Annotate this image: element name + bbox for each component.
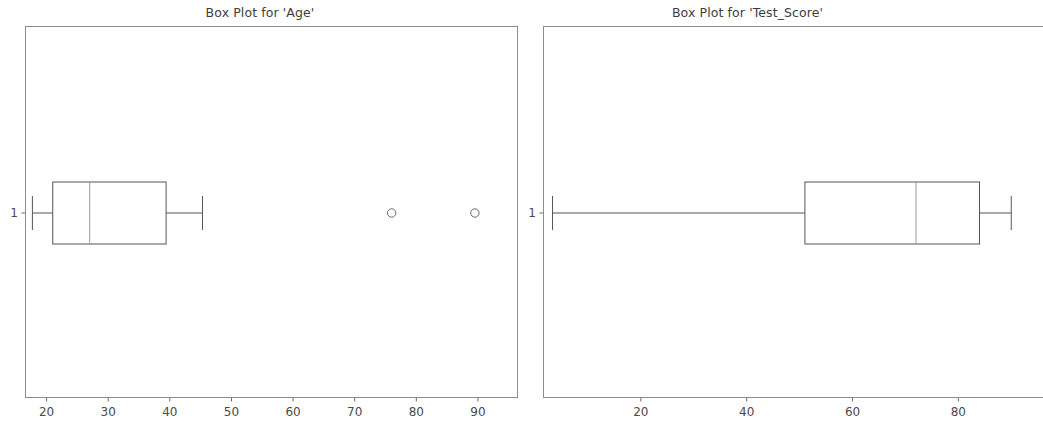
xaxis-tick-label: 40 [739,405,754,419]
xaxis-tick-label: 60 [285,405,300,419]
xaxis-tick-label: 30 [101,405,116,419]
subplot-test-score: Box Plot for 'Test_Score' 20406080 1 [520,0,1020,423]
xaxis-tick-label: 40 [162,405,177,419]
xaxis-tick-label: 70 [347,405,362,419]
xaxis-tick-label: 60 [845,405,860,419]
xaxis-tick-label: 80 [409,405,424,419]
boxplot-graphic-test-score [520,0,1020,423]
yaxis-tick-label: 1 [521,206,536,220]
yaxis-tick-label: 1 [3,206,18,220]
xaxis-tick-label: 20 [633,405,648,419]
boxplot-graphic-age [0,0,520,423]
xaxis-tick-label: 80 [951,405,966,419]
xaxis-tick-label: 20 [39,405,54,419]
xaxis-tick-label: 90 [470,405,485,419]
subplot-age: Box Plot for 'Age' 2030405060708090 1 [0,0,520,423]
xaxis-tick-label: 50 [224,405,239,419]
